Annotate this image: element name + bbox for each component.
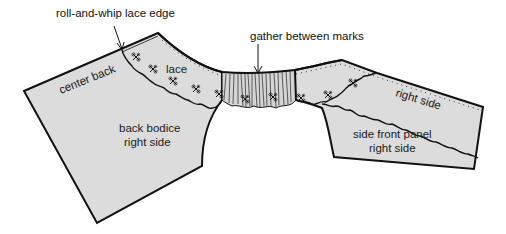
side-front-panel-name-line2: right side xyxy=(369,142,416,154)
callout-lace-edge-text: roll-and-whip lace edge xyxy=(56,7,175,19)
callout-gather-text: gather between marks xyxy=(250,30,364,42)
side-front-panel-name-line1: side front panel xyxy=(353,128,432,140)
back-bodice-name-line1: back bodice xyxy=(119,122,180,134)
back-bodice-name-line2: right side xyxy=(124,136,171,148)
lace-label: lace xyxy=(166,63,187,75)
sewing-diagram: roll-and-whip lace edge gather between m… xyxy=(0,0,506,234)
